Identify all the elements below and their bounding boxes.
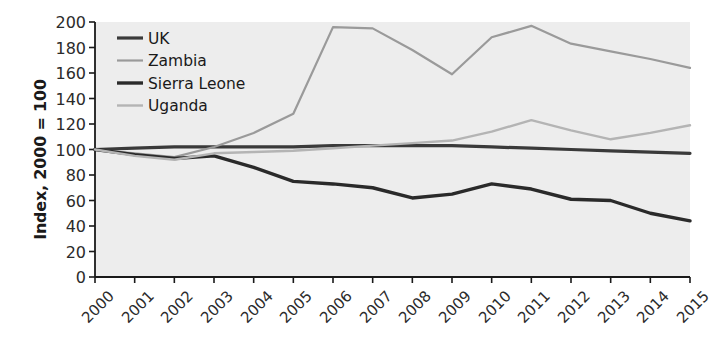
- legend-label-zambia: Zambia: [148, 52, 207, 70]
- legend-label-uk: UK: [148, 30, 170, 48]
- legend-label-sierra-leone: Sierra Leone: [148, 75, 245, 93]
- legend-label-uganda: Uganda: [148, 97, 208, 115]
